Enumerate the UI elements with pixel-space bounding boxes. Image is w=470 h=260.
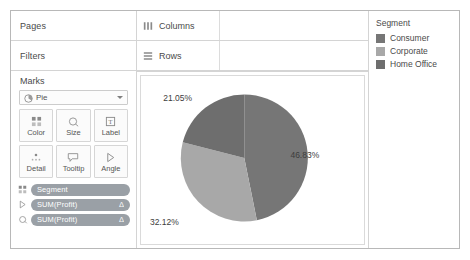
size-icon [67, 115, 79, 128]
legend-item-corporate[interactable]: Corporate [376, 46, 459, 56]
angle-button[interactable]: Angle [94, 145, 128, 178]
marks-header: Marks [11, 71, 136, 90]
pie-label-corporate: 32.12% [150, 217, 179, 227]
legend-item-label: Consumer [390, 33, 429, 43]
pill-segment[interactable]: Segment [31, 184, 130, 196]
marks-buttons-grid: Color Size T [19, 109, 128, 178]
legend-title: Segment [376, 18, 459, 28]
svg-text:T: T [109, 117, 113, 124]
legend-swatch [376, 47, 385, 56]
tooltip-icon [67, 151, 79, 164]
columns-label: Columns [159, 21, 219, 31]
pill-sum-profit-label-label: SUM(Profit) [37, 215, 119, 224]
legend-item-home-office[interactable]: Home Office [376, 59, 459, 69]
pill-sum-profit-angle[interactable]: SUM(Profit) Δ [31, 199, 130, 211]
angle-icon [17, 200, 28, 209]
view-area: 46.83% 32.12% 21.05% [137, 71, 368, 248]
detail-icon [30, 151, 42, 164]
legend-swatch [376, 60, 385, 69]
color-icon [31, 115, 42, 128]
color-button[interactable]: Color [19, 109, 53, 142]
pill-sum-profit-label-delta: Δ [119, 215, 124, 224]
mark-type-value: Pie [36, 93, 117, 102]
label-button-label: Label [102, 129, 120, 137]
left-panel: Pages Filters Marks Pie [11, 11, 137, 248]
pages-label: Pages [20, 21, 46, 31]
size-button[interactable]: Size [56, 109, 90, 142]
legend-swatch [376, 34, 385, 43]
size-button-label: Size [66, 129, 81, 137]
pages-shelf[interactable]: Pages [11, 11, 136, 41]
columns-dropzone[interactable] [219, 11, 368, 40]
color-legend: Segment Consumer Corporate Home Office [369, 11, 459, 248]
marks-label: Marks [20, 76, 45, 86]
label-button[interactable]: T Label [94, 109, 128, 142]
pill-sum-profit-label[interactable]: SUM(Profit) Δ [31, 214, 130, 226]
rows-shelf[interactable]: Rows [137, 41, 368, 71]
chevron-down-icon [117, 96, 123, 99]
filters-label: Filters [20, 51, 45, 61]
pie-label-home-office: 21.05% [163, 93, 192, 103]
pie-icon [24, 89, 33, 107]
center-panel: Columns Rows 46.83% [137, 11, 369, 248]
rows-icon [137, 51, 159, 61]
pill-row-label: SUM(Profit) Δ [17, 213, 130, 226]
filters-shelf[interactable]: Filters [11, 41, 136, 71]
columns-shelf[interactable]: Columns [137, 11, 368, 41]
marks-card: Marks Pie [11, 71, 136, 248]
tooltip-button-label: Tooltip [63, 165, 85, 173]
view-canvas[interactable]: 46.83% 32.12% 21.05% [140, 75, 365, 245]
pie-slices[interactable] [181, 94, 308, 221]
pill-row-angle: SUM(Profit) Δ [17, 198, 130, 211]
mark-type-row: Pie [11, 90, 136, 105]
legend-item-consumer[interactable]: Consumer [376, 33, 459, 43]
tooltip-button[interactable]: Tooltip [56, 145, 90, 178]
label-icon: T [105, 115, 116, 128]
color-icon [17, 185, 28, 194]
pill-segment-label: Segment [37, 185, 124, 194]
angle-icon [105, 151, 116, 164]
tableau-worksheet-window: Pages Filters Marks Pie [10, 10, 460, 249]
detail-button-label: Detail [27, 165, 46, 173]
rows-dropzone[interactable] [219, 41, 368, 70]
pie-chart[interactable]: 46.83% 32.12% 21.05% [141, 76, 364, 244]
color-button-label: Color [27, 129, 45, 137]
pill-sum-profit-angle-label: SUM(Profit) [37, 200, 119, 209]
rows-label: Rows [159, 51, 219, 61]
angle-button-label: Angle [101, 165, 120, 173]
legend-item-label: Corporate [390, 46, 428, 56]
legend-item-label: Home Office [390, 59, 437, 69]
pie-label-consumer: 46.83% [290, 150, 319, 160]
marks-pills-list: Segment SUM(Profit) Δ [17, 183, 130, 226]
detail-button[interactable]: Detail [19, 145, 53, 178]
pill-sum-profit-angle-delta: Δ [119, 200, 124, 209]
pill-row-color: Segment [17, 183, 130, 196]
columns-icon [137, 21, 159, 31]
mark-type-dropdown[interactable]: Pie [19, 90, 128, 105]
label-icon [17, 215, 28, 224]
